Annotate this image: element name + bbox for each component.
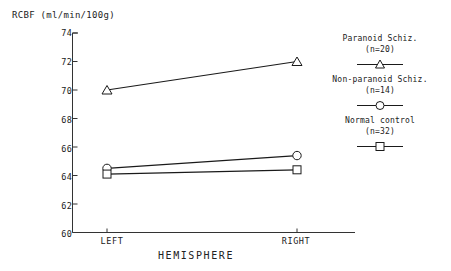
legend-n-normal: (n=32) [315, 126, 445, 137]
triangle-marker-icon [315, 57, 445, 71]
series-2 [103, 166, 301, 178]
legend-swatch-paranoid [315, 56, 445, 70]
data-series-layer [102, 57, 302, 178]
y-axis-ticks [73, 33, 78, 233]
axis-lines [73, 33, 356, 233]
series-1 [103, 151, 301, 172]
series-0 [102, 57, 302, 94]
legend-swatch-nonparanoid [315, 97, 445, 111]
legend-swatch-normal [315, 138, 445, 152]
legend-label-normal: Normal control [315, 115, 445, 126]
legend-label-nonparanoid: Non-paranoid Schiz. [315, 74, 445, 85]
circle-data-point [293, 151, 301, 159]
legend-n-nonparanoid: (n=14) [315, 85, 445, 96]
legend-entry-nonparanoid: Non-paranoid Schiz. (n=14) [315, 74, 445, 111]
square-data-point [103, 170, 111, 178]
legend-entry-paranoid: Paranoid Schiz. (n=20) [315, 33, 445, 70]
triangle-data-point [292, 57, 302, 66]
legend-label-paranoid: Paranoid Schiz. [315, 33, 445, 44]
square-marker-icon [315, 139, 445, 153]
chart-figure: RCBF (ml/min/100g) 74 72 70 68 66 64 62 … [0, 0, 451, 271]
circle-marker-icon [315, 98, 445, 112]
legend-n-paranoid: (n=20) [315, 44, 445, 55]
square-data-point [293, 166, 301, 174]
legend-entry-normal: Normal control (n=32) [315, 115, 445, 152]
x-axis-ticks [107, 229, 297, 233]
